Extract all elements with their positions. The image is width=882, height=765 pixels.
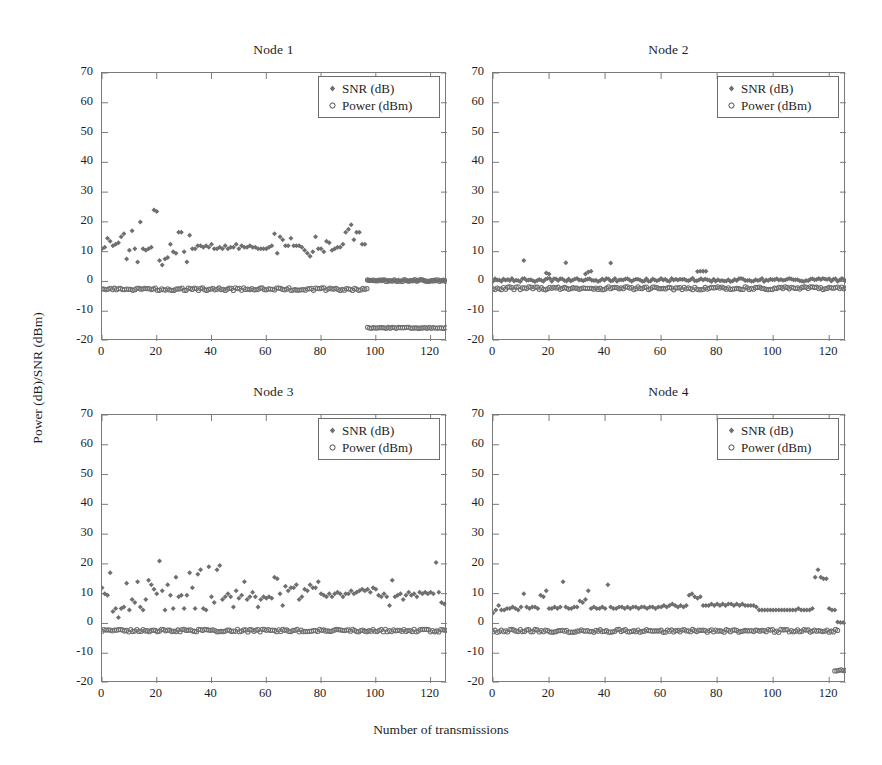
y-tick-label: 60	[41, 94, 93, 109]
x-tick-label: 100	[355, 344, 395, 359]
y-tick-label: 40	[432, 495, 484, 510]
y-tick-label: 40	[41, 495, 93, 510]
legend-item-power[interactable]: Power (dBm)	[723, 439, 830, 456]
legend-label-power: Power (dBm)	[340, 440, 412, 456]
series-power-1	[102, 286, 369, 293]
y-tick-label: 40	[41, 153, 93, 168]
x-tick-label: 60	[245, 686, 285, 701]
circle-marker-icon	[324, 99, 340, 113]
y-tick-label: 20	[41, 555, 93, 570]
circle-marker-icon	[723, 99, 739, 113]
x-tick-label: 80	[300, 686, 340, 701]
panel-node-2: Node 2 706050403020100-10-20020406080100…	[432, 42, 845, 370]
x-tick-label: 0	[81, 686, 121, 701]
series-power-1	[102, 627, 447, 634]
circle-marker-icon	[324, 441, 340, 455]
y-tick-label: 0	[41, 272, 93, 287]
y-tick-label: 50	[432, 124, 484, 139]
panel-title-node-3: Node 3	[101, 384, 446, 400]
x-tick-label: 60	[640, 344, 680, 359]
diamond-marker-icon	[723, 424, 739, 438]
legend-label-snr: SNR (dB)	[340, 81, 394, 97]
y-tick-label: 10	[41, 585, 93, 600]
series-snr-0	[102, 207, 367, 267]
legend-item-power[interactable]: Power (dBm)	[324, 97, 431, 114]
x-axis-label: Number of transmissions	[0, 722, 882, 738]
y-tick-label: 70	[41, 406, 93, 421]
x-tick-label: 120	[808, 344, 848, 359]
y-tick-label: 70	[432, 406, 484, 421]
x-tick-label: 60	[640, 686, 680, 701]
y-tick-label: 30	[41, 183, 93, 198]
legend-item-snr[interactable]: SNR (dB)	[723, 422, 830, 439]
y-tick-label: 60	[432, 94, 484, 109]
y-tick-label: 30	[432, 525, 484, 540]
y-tick-label: 60	[41, 436, 93, 451]
series-snr-0	[493, 258, 846, 284]
legend-label-power: Power (dBm)	[340, 98, 412, 114]
y-tick-label: 0	[432, 614, 484, 629]
y-tick-label: 50	[432, 466, 484, 481]
y-tick-label: 70	[41, 64, 93, 79]
series-snr-0	[493, 567, 846, 625]
legend-node-2[interactable]: SNR (dB)Power (dBm)	[717, 76, 839, 118]
x-tick-label: 100	[355, 686, 395, 701]
y-tick-label: 0	[432, 272, 484, 287]
x-tick-label: 80	[300, 344, 340, 359]
x-tick-label: 40	[584, 686, 624, 701]
y-tick-label: 60	[432, 436, 484, 451]
series-snr-0	[102, 558, 447, 620]
y-tick-label: -10	[432, 302, 484, 317]
y-tick-label: 20	[432, 555, 484, 570]
y-axis-label-container: Power (dB)/SNR (dBm)	[0, 0, 40, 765]
y-tick-label: -10	[432, 644, 484, 659]
legend-item-snr[interactable]: SNR (dB)	[324, 422, 431, 439]
diamond-marker-icon	[723, 82, 739, 96]
y-tick-label: 50	[41, 466, 93, 481]
legend-node-4[interactable]: SNR (dB)Power (dBm)	[717, 418, 839, 460]
x-tick-label: 60	[245, 344, 285, 359]
legend-label-snr: SNR (dB)	[340, 423, 394, 439]
y-tick-label: 20	[41, 213, 93, 228]
x-tick-label: 100	[752, 686, 792, 701]
circle-marker-icon	[723, 441, 739, 455]
y-tick-label: 10	[432, 243, 484, 258]
panel-title-node-4: Node 4	[492, 384, 845, 400]
panel-title-node-1: Node 1	[101, 42, 446, 58]
x-tick-label: 40	[584, 344, 624, 359]
panel-node-1: Node 1 706050403020100-10-20020406080100…	[41, 42, 446, 370]
series-power-1	[493, 627, 840, 634]
y-tick-label: 0	[41, 614, 93, 629]
x-tick-label: 20	[528, 344, 568, 359]
y-tick-label: 70	[432, 64, 484, 79]
diamond-marker-icon	[324, 424, 340, 438]
y-tick-label: 10	[41, 243, 93, 258]
diamond-marker-icon	[324, 82, 340, 96]
legend-item-power[interactable]: Power (dBm)	[324, 439, 431, 456]
series-power-1	[493, 285, 846, 292]
y-tick-label: 30	[41, 525, 93, 540]
x-tick-label: 20	[528, 686, 568, 701]
legend-label-power: Power (dBm)	[739, 98, 811, 114]
x-tick-label: 80	[696, 344, 736, 359]
x-tick-label: 20	[136, 686, 176, 701]
legend-label-snr: SNR (dB)	[739, 81, 793, 97]
y-tick-label: -10	[41, 644, 93, 659]
y-tick-label: 50	[41, 124, 93, 139]
legend-node-3[interactable]: SNR (dB)Power (dBm)	[318, 418, 440, 460]
legend-item-power[interactable]: Power (dBm)	[723, 97, 830, 114]
x-tick-label: 0	[472, 344, 512, 359]
legend-label-snr: SNR (dB)	[739, 423, 793, 439]
x-tick-label: 0	[81, 344, 121, 359]
legend-node-1[interactable]: SNR (dB)Power (dBm)	[318, 76, 440, 118]
x-tick-label: 100	[752, 344, 792, 359]
panel-node-4: Node 4 706050403020100-10-20020406080100…	[432, 384, 845, 712]
legend-item-snr[interactable]: SNR (dB)	[723, 80, 830, 97]
legend-item-snr[interactable]: SNR (dB)	[324, 80, 431, 97]
x-tick-label: 20	[136, 344, 176, 359]
x-tick-label: 0	[472, 686, 512, 701]
y-tick-label: 10	[432, 585, 484, 600]
x-tick-label: 40	[191, 344, 231, 359]
legend-label-power: Power (dBm)	[739, 440, 811, 456]
x-tick-label: 120	[808, 686, 848, 701]
